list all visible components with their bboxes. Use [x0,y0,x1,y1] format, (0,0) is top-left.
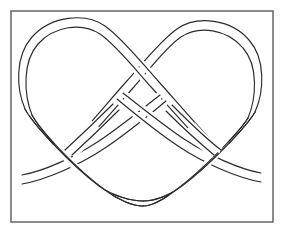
knot-diagram-svg [0,0,283,232]
figure-canvas: Rope knot line diagram A single continuo… [0,0,283,232]
